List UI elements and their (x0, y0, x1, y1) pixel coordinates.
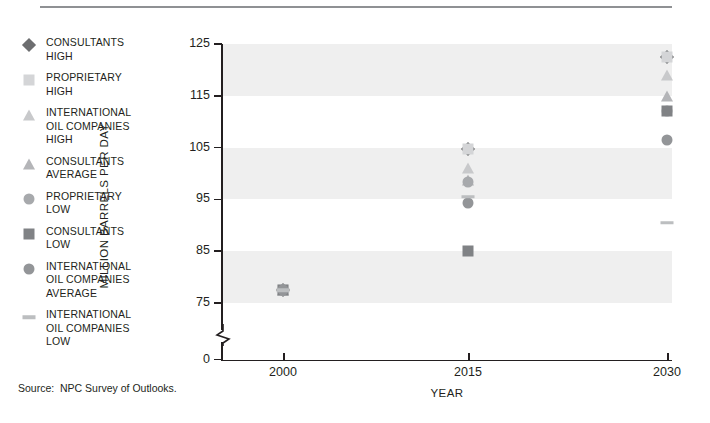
marker-circle-icon (463, 198, 474, 209)
x-axis-tick-label: 2000 (269, 365, 297, 379)
marker-triangle-icon (661, 70, 673, 81)
x-axis-tick (667, 353, 669, 360)
y-axis-line (221, 44, 223, 330)
y-axis-tick-label: 75 (170, 295, 210, 309)
background-band (222, 44, 672, 96)
y-axis-tick (214, 359, 222, 361)
y-axis-tick-label: 85 (170, 243, 210, 257)
background-band (222, 148, 672, 200)
marker-circle-icon (662, 134, 673, 145)
chart-plot-wrapper: MILLION BARRELS PER DAY YEAR 07585951051… (0, 0, 710, 423)
marker-dash-icon (462, 195, 475, 199)
y-axis-tick (214, 199, 222, 201)
marker-square-icon (662, 106, 673, 117)
marker-circle-icon (463, 177, 474, 188)
y-axis-tick-label: 105 (170, 140, 210, 154)
marker-triangle-icon (462, 163, 474, 174)
y-axis-tick-label: 115 (170, 88, 210, 102)
marker-triangle-icon (661, 90, 673, 101)
y-axis-title: MILLION BARRELS PER DAY (98, 76, 110, 336)
marker-square-icon (463, 246, 474, 257)
x-axis-tick (468, 353, 470, 360)
x-axis-title: YEAR (222, 387, 672, 399)
x-axis-tick-label: 2015 (454, 365, 482, 379)
marker-dash-icon (277, 288, 290, 292)
y-axis-tick-label: 0 (170, 352, 210, 366)
y-axis-break-icon (214, 324, 232, 346)
background-band (222, 251, 672, 303)
plot-area (222, 44, 672, 303)
y-axis-tick (214, 147, 222, 149)
y-axis-tick (214, 95, 222, 97)
y-axis-tick (214, 302, 222, 304)
marker-dash-icon (661, 221, 674, 225)
source-note: Source: NPC Survey of Outlooks. (18, 382, 177, 394)
x-axis-tick-label: 2030 (653, 365, 681, 379)
x-axis-tick (283, 353, 285, 360)
y-axis-tick-label: 95 (170, 191, 210, 205)
marker-square-icon (662, 51, 673, 62)
marker-square-icon (463, 144, 474, 155)
y-axis-tick (214, 250, 222, 252)
y-axis-tick-label: 125 (170, 36, 210, 50)
x-axis-line (221, 360, 672, 362)
y-axis-tick (214, 43, 222, 45)
